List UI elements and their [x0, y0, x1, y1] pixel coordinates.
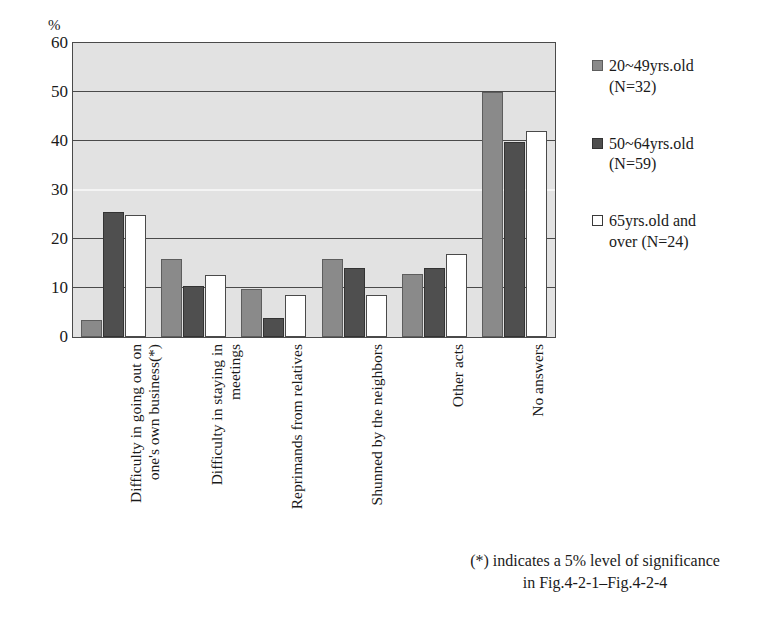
legend-swatch-65-over [592, 215, 603, 226]
y-tick-label-10: 10 [10, 279, 68, 296]
bar [81, 320, 102, 337]
y-tick-label-40: 40 [10, 132, 68, 149]
bar [424, 268, 445, 337]
bar [402, 274, 423, 337]
y-tick-label-30: 30 [10, 181, 68, 198]
legend-item: 50~64yrs.old (N=59) [592, 134, 762, 176]
bar-group [394, 43, 474, 337]
y-axis-unit-label: % [48, 18, 61, 33]
bar-group [234, 43, 314, 337]
y-axis: 0102030405060 [6, 42, 68, 338]
category-label: Shunned by the neighbors [368, 344, 386, 574]
legend-swatch-50-64 [592, 138, 603, 149]
bar [205, 275, 226, 337]
bar-group [73, 43, 153, 337]
category-label: Difficulty in going out on one's own bus… [127, 344, 164, 574]
bar-group [153, 43, 233, 337]
x-axis-category-labels: Difficulty in going out on one's own bus… [73, 344, 555, 574]
chart-footnote: (*) indicates a 5% level of significance… [430, 550, 760, 593]
bar [161, 259, 182, 337]
bar-group [475, 43, 555, 337]
legend-label: 65yrs.old and over (N=24) [609, 211, 696, 253]
bar [344, 268, 365, 337]
bar [322, 259, 343, 337]
category-label: Other acts [449, 344, 467, 574]
bar [103, 212, 124, 337]
legend-label: 50~64yrs.old (N=59) [609, 134, 694, 176]
bars-layer [73, 43, 555, 337]
category-label: Reprimands from relatives [288, 344, 306, 574]
y-tick-label-50: 50 [10, 83, 68, 100]
bar [366, 295, 387, 337]
category-label: No answers [529, 344, 547, 574]
bar-group [314, 43, 394, 337]
legend-item: 65yrs.old and over (N=24) [592, 211, 762, 253]
bar [446, 254, 467, 337]
bar [241, 289, 262, 337]
bar [504, 142, 525, 337]
bar [285, 295, 306, 337]
chart-legend: 20~49yrs.old (N=32)50~64yrs.old (N=59)65… [592, 56, 762, 289]
bar [125, 215, 146, 338]
y-tick-label-60: 60 [10, 34, 68, 51]
legend-item: 20~49yrs.old (N=32) [592, 56, 762, 98]
legend-swatch-20-49 [592, 60, 603, 71]
legend-label: 20~49yrs.old (N=32) [609, 56, 694, 98]
bar [526, 131, 547, 337]
bar [183, 286, 204, 337]
bar [482, 92, 503, 337]
category-label: Difficulty in staying in meetings [208, 344, 245, 574]
y-tick-label-0: 0 [10, 328, 68, 345]
bar [263, 318, 284, 337]
y-tick-label-20: 20 [10, 230, 68, 247]
